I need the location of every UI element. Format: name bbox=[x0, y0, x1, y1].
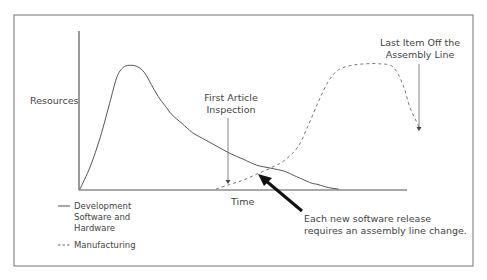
annotation-first-article-line2: Inspection bbox=[206, 104, 255, 115]
annotation-software-release-line1: Each new software release bbox=[304, 213, 431, 224]
x-axis-label: Time bbox=[230, 196, 254, 207]
y-axis-label: Resources bbox=[30, 95, 79, 106]
legend-label-development-line1: Development bbox=[74, 201, 132, 211]
annotation-software-release-line2: requires an assembly line change. bbox=[304, 225, 467, 236]
annotation-first-article-line1: First Article bbox=[204, 92, 258, 103]
annotation-last-item-line2: Assembly Line bbox=[386, 49, 455, 60]
resource-timeline-diagram: Resources Time First Article Inspection … bbox=[0, 0, 487, 280]
legend-label-manufacturing: Manufacturing bbox=[74, 240, 136, 250]
legend-label-development-line2: Software and bbox=[74, 212, 130, 222]
legend-label-development-line3: Hardware bbox=[74, 223, 115, 233]
annotation-last-item-line1: Last Item Off the bbox=[380, 37, 460, 48]
